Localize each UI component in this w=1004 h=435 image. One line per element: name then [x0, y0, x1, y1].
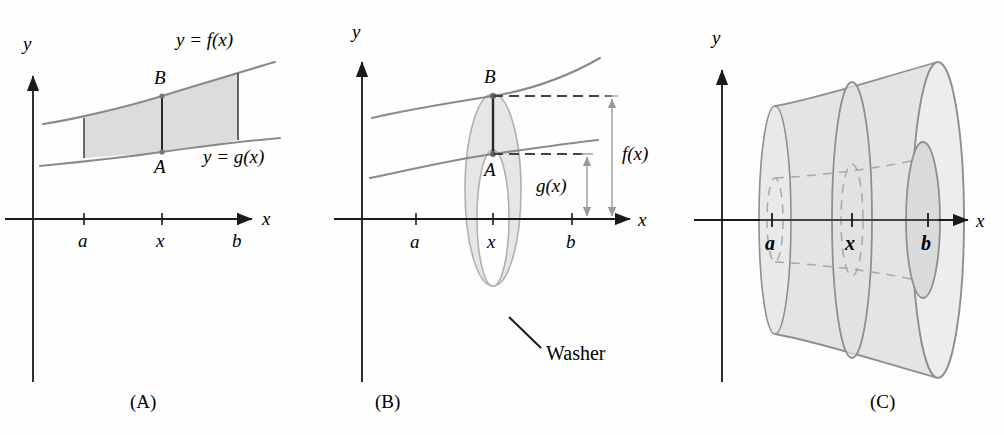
tick-label-x-a: x: [155, 230, 165, 251]
point-b-dot: [159, 93, 164, 98]
point-label-b-a: B: [154, 67, 166, 88]
tick-label-a-c: a: [765, 232, 775, 254]
washer-annotation-label: Washer: [546, 342, 606, 364]
tick-label-a-a: a: [78, 230, 88, 251]
panel-a: x y a x b y = f(x) y = g(x) B A (A): [5, 29, 280, 413]
washer-leader-line: [509, 317, 541, 348]
axis-y-label-c: y: [710, 27, 721, 48]
lower-curve-label-a: y = g(x): [201, 146, 264, 168]
axis-x-label-c: x: [975, 210, 985, 231]
caption-a: (A): [130, 391, 156, 413]
point-label-b-b: B: [484, 66, 496, 87]
point-a-dot: [159, 149, 164, 154]
upper-curve-label-a: y = f(x): [174, 29, 233, 51]
axis-y-label-b: y: [350, 21, 361, 42]
panel-c: x y a x b (C): [694, 27, 985, 413]
axis-x-label-a: x: [261, 208, 271, 229]
tick-label-b-a: b: [232, 230, 242, 251]
measure-label-g: g(x): [536, 175, 567, 197]
figure-root: x y a x b y = f(x) y = g(x) B A (A): [0, 0, 1004, 435]
tick-label-b-c: b: [921, 232, 931, 254]
axis-y-label-a: y: [21, 33, 32, 54]
panel-b: x y a x b B A f(x) g(x) Washer (B): [334, 21, 648, 413]
measure-label-f: f(x): [622, 143, 648, 165]
axis-x-label-b: x: [637, 209, 647, 230]
caption-b: (B): [375, 391, 400, 413]
point-label-a-a: A: [152, 156, 166, 177]
point-label-a-b: A: [482, 159, 496, 180]
tick-label-x-b: x: [486, 231, 496, 252]
tick-label-b-b: b: [566, 231, 576, 252]
caption-c: (C): [870, 391, 895, 413]
tick-label-x-c: x: [844, 232, 855, 254]
figure-svg: x y a x b y = f(x) y = g(x) B A (A): [0, 0, 1004, 435]
tick-label-a-b: a: [410, 231, 420, 252]
